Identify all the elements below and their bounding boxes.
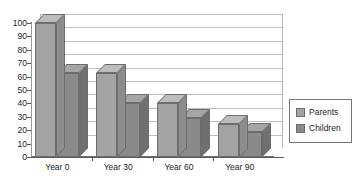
bar-front-face (96, 73, 117, 157)
gridline (41, 27, 282, 28)
x-axis-tick-label: Year 30 (104, 163, 133, 172)
x-axis-tick-mark (213, 157, 214, 161)
y-axis-tick-label: 50 (18, 86, 27, 95)
bar-side-face (79, 64, 88, 157)
bar-parents-year-30 (96, 73, 117, 157)
bar-parents-year-0 (35, 23, 56, 157)
bar-parents-year-60 (157, 103, 178, 157)
x-axis-tick-label: Year 0 (45, 163, 69, 172)
y-axis-tick-label: 40 (18, 99, 27, 108)
x-axis-tick-mark (153, 157, 154, 161)
legend-swatch-parents (296, 108, 305, 117)
gridline (41, 41, 282, 42)
bar-side-face (178, 94, 187, 157)
bar-side-face (117, 64, 126, 157)
x-axis-tick-label: Year 60 (164, 163, 193, 172)
legend-label-children: Children (309, 124, 341, 133)
bar-front-face (35, 23, 56, 157)
legend-label-parents: Parents (309, 108, 338, 117)
y-axis-tick-label: 10 (18, 139, 27, 148)
chart-container: 0102030405060708090100 Parents Children … (0, 0, 357, 186)
y-axis: 0102030405060708090100 (0, 0, 31, 186)
legend-item-parents: Parents (296, 108, 338, 117)
bar-parents-year-90 (218, 124, 239, 158)
bar-front-face (218, 124, 239, 158)
legend-item-children: Children (296, 124, 341, 133)
gridline (41, 54, 282, 55)
y-axis-tick-label: 30 (18, 113, 27, 122)
gridline (41, 14, 282, 15)
x-axis-line (31, 157, 284, 158)
legend-swatch-children (296, 124, 305, 133)
chart-legend: Parents Children (289, 99, 352, 143)
y-axis-tick-label: 20 (18, 126, 27, 135)
y-axis-tick-label: 80 (18, 46, 27, 55)
bar-side-face (56, 14, 65, 157)
x-axis-tick-label: Year 90 (225, 163, 254, 172)
bar-side-face (140, 94, 149, 157)
x-axis-tick-mark (92, 157, 93, 161)
y-axis-tick-label: 70 (18, 59, 27, 68)
bar-front-face (157, 103, 178, 157)
y-axis-tick-label: 60 (18, 72, 27, 81)
y-axis-tick-label: 90 (18, 32, 27, 41)
y-axis-tick-label: 100 (13, 19, 27, 28)
